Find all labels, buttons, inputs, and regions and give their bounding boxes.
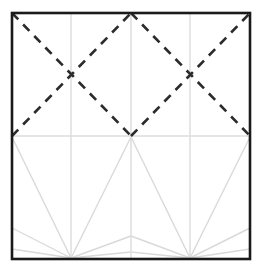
crease-pattern-canvas [0,0,262,272]
origami-crease-pattern-figure [0,0,262,272]
